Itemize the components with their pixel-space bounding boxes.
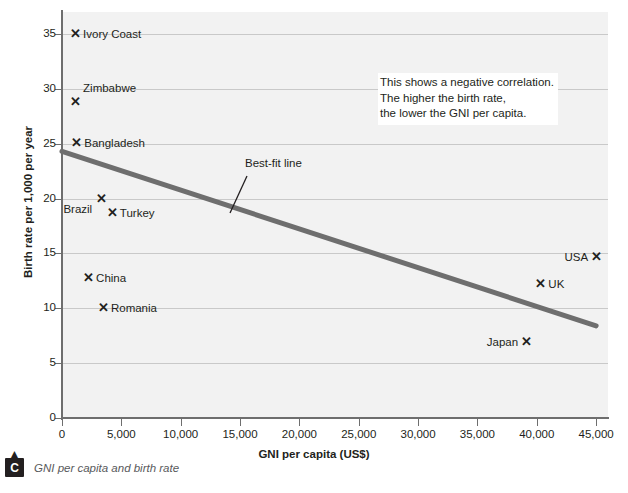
y-tick <box>55 89 62 90</box>
data-point-label: Romania <box>111 302 157 314</box>
caret-up-icon: ▲ <box>5 450 24 458</box>
x-tick-label: 45,000 <box>561 428 628 440</box>
data-point-label: UK <box>548 278 564 290</box>
correlation-annotation: This shows a negative correlation. The h… <box>378 73 558 125</box>
data-point-marker: ✕ <box>71 138 81 148</box>
data-point-marker: ✕ <box>83 273 93 283</box>
y-axis-title: Birth rate per 1,000 per year <box>22 122 34 282</box>
x-tick <box>62 419 63 426</box>
chart-figure: 05101520253035 05,00010,00015,00020,0002… <box>0 0 628 493</box>
data-point-label: China <box>96 272 126 284</box>
y-tick <box>55 308 62 309</box>
data-point-label: Ivory Coast <box>83 28 141 40</box>
data-point-marker: ✕ <box>70 97 80 107</box>
y-tick-label: 35 <box>28 28 56 40</box>
x-tick <box>299 419 300 426</box>
y-tick-label: 0 <box>28 412 56 424</box>
data-point-label: USA <box>0 251 588 263</box>
x-axis-line <box>61 417 609 419</box>
x-tick <box>418 419 419 426</box>
data-point-label: Bangladesh <box>84 137 145 149</box>
data-point-marker: ✕ <box>98 303 108 313</box>
y-tick <box>55 34 62 35</box>
data-point-label: Turkey <box>120 207 155 219</box>
caption-text: GNI per capita and birth rate <box>34 462 179 474</box>
data-point-marker: ✕ <box>107 208 117 218</box>
caption-badge-letter: C <box>5 458 24 477</box>
data-point-marker: ✕ <box>70 29 80 39</box>
y-axis-line <box>61 10 63 420</box>
y-tick <box>55 144 62 145</box>
x-tick <box>181 419 182 426</box>
x-tick <box>477 419 478 426</box>
best-fit-line-label: Best-fit line <box>243 157 304 169</box>
gridline <box>62 363 608 364</box>
y-tick-label: 5 <box>28 357 56 369</box>
x-tick <box>121 419 122 426</box>
x-tick <box>596 419 597 426</box>
y-tick <box>55 363 62 364</box>
data-point-marker: ✕ <box>96 194 106 204</box>
y-tick-label: 10 <box>28 302 56 314</box>
data-point-marker: ✕ <box>521 337 531 347</box>
figure-caption: C GNI per capita and birth rate <box>5 458 179 477</box>
x-tick <box>537 419 538 426</box>
y-tick <box>55 199 62 200</box>
x-tick <box>359 419 360 426</box>
data-point-label: Zimbabwe <box>83 82 136 94</box>
gridline <box>62 34 608 35</box>
gridline <box>62 199 608 200</box>
data-point-label: Japan <box>0 336 518 348</box>
y-tick <box>55 418 62 419</box>
data-point-marker: ✕ <box>535 279 545 289</box>
data-point-label: Brazil <box>0 203 92 215</box>
data-point-marker: ✕ <box>591 252 601 262</box>
y-tick-label: 30 <box>28 83 56 95</box>
x-tick <box>240 419 241 426</box>
